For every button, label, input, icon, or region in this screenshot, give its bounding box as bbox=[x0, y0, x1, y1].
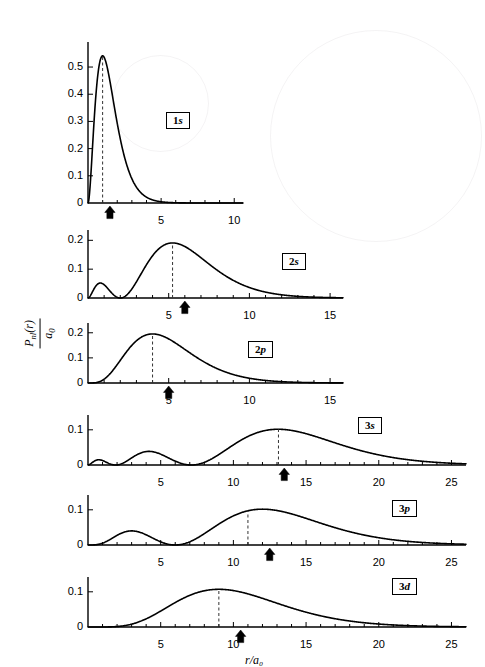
x-tick-label-1s-5: 5 bbox=[141, 214, 181, 226]
panel-2p bbox=[88, 323, 343, 399]
mean-radius-arrow-1s bbox=[105, 206, 115, 219]
curve-3s bbox=[88, 429, 466, 465]
x-tick-label-2s-5: 5 bbox=[149, 309, 189, 321]
y-tick-label-3s-0: 0 bbox=[43, 458, 83, 470]
x-tick-label-2p-15: 15 bbox=[310, 394, 350, 406]
y-tick-label-2p-0.2: 0.2 bbox=[43, 326, 83, 338]
x-tick-label-3p-5: 5 bbox=[141, 556, 181, 568]
y-tick-label-3d-0.1: 0.1 bbox=[43, 585, 83, 597]
x-tick-label-3p-25: 25 bbox=[431, 556, 471, 568]
orbital-label-3p: 3p bbox=[392, 500, 417, 517]
y-tick-label-3d-0: 0 bbox=[43, 620, 83, 632]
orbital-label-l: s bbox=[295, 255, 299, 267]
orbital-label-1s: 1s bbox=[166, 112, 190, 129]
x-axis-label-text: r/a₀ bbox=[245, 653, 263, 667]
x-tick-label-3d-10: 10 bbox=[213, 638, 253, 650]
y-tick-label-1s-0: 0 bbox=[43, 196, 83, 208]
orbital-label-l: s bbox=[371, 419, 375, 431]
x-tick-label-3p-15: 15 bbox=[286, 556, 326, 568]
x-tick-label-3s-10: 10 bbox=[213, 476, 253, 488]
x-tick-label-3p-10: 10 bbox=[213, 556, 253, 568]
x-tick-label-2p-5: 5 bbox=[149, 394, 189, 406]
x-tick-label-3s-15: 15 bbox=[286, 476, 326, 488]
x-tick-label-3s-20: 20 bbox=[359, 476, 399, 488]
y-tick-label-2s-0.2: 0.2 bbox=[43, 233, 83, 245]
orbital-label-l: p bbox=[405, 502, 411, 514]
y-tick-label-1s-0.1: 0.1 bbox=[43, 169, 83, 181]
orbital-label-3s: 3s bbox=[358, 417, 382, 434]
x-tick-label-3d-5: 5 bbox=[141, 638, 181, 650]
x-tick-label-2s-15: 15 bbox=[310, 309, 350, 321]
x-tick-label-3d-20: 20 bbox=[359, 638, 399, 650]
y-tick-label-3p-0: 0 bbox=[43, 538, 83, 550]
x-tick-label-3d-25: 25 bbox=[431, 638, 471, 650]
curve-1s bbox=[88, 56, 243, 203]
panel-1s bbox=[88, 42, 243, 219]
x-tick-label-1s-10: 10 bbox=[214, 214, 254, 226]
curve-2p bbox=[88, 334, 343, 383]
orbital-label-2s: 2s bbox=[282, 253, 306, 270]
x-tick-label-3s-25: 25 bbox=[431, 476, 471, 488]
y-tick-label-3s-0.1: 0.1 bbox=[43, 423, 83, 435]
orbital-label-l: d bbox=[405, 580, 411, 592]
mean-radius-arrow-3p bbox=[265, 548, 275, 561]
y-tick-label-1s-0.3: 0.3 bbox=[43, 114, 83, 126]
y-tick-label-1s-0.2: 0.2 bbox=[43, 142, 83, 154]
y-tick-label-2p-0: 0 bbox=[43, 376, 83, 388]
y-tick-label-2s-0.1: 0.1 bbox=[43, 262, 83, 274]
x-tick-label-2s-10: 10 bbox=[229, 309, 269, 321]
orbital-label-l: s bbox=[179, 114, 183, 126]
y-tick-label-2s-0: 0 bbox=[43, 291, 83, 303]
y-tick-label-1s-0.5: 0.5 bbox=[43, 60, 83, 72]
curve-2s bbox=[88, 243, 343, 298]
x-tick-label-3p-20: 20 bbox=[359, 556, 399, 568]
orbital-label-l: p bbox=[261, 343, 267, 355]
orbital-label-2p: 2p bbox=[248, 341, 273, 358]
panel-2s bbox=[88, 230, 343, 314]
x-axis-label: r/a₀ bbox=[245, 653, 263, 667]
y-tick-label-1s-0.4: 0.4 bbox=[43, 87, 83, 99]
x-tick-label-3d-15: 15 bbox=[286, 638, 326, 650]
x-tick-label-2p-10: 10 bbox=[229, 394, 269, 406]
y-tick-label-3p-0.1: 0.1 bbox=[43, 503, 83, 515]
panel-3s bbox=[88, 415, 466, 481]
y-tick-label-2p-0.1: 0.1 bbox=[43, 351, 83, 363]
orbital-label-3d: 3d bbox=[392, 578, 417, 595]
x-tick-label-3s-5: 5 bbox=[141, 476, 181, 488]
